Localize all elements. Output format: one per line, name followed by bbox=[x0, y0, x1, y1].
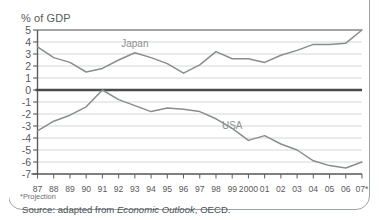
x-tick-label: 07* bbox=[356, 184, 369, 194]
y-tick-label: 0 bbox=[13, 84, 31, 96]
x-tick-label: 2000 bbox=[239, 184, 258, 194]
x-tick-label: 89 bbox=[65, 184, 75, 194]
source-caption: Source: adapted from Economic Outlook, O… bbox=[22, 204, 231, 215]
x-tick-label: 90 bbox=[81, 184, 91, 194]
y-tick-label: 4 bbox=[13, 36, 31, 48]
x-tick-label: 92 bbox=[114, 184, 124, 194]
y-tick-label: -1 bbox=[13, 96, 31, 108]
x-tick-label: 95 bbox=[163, 184, 173, 194]
x-tick-label: 01 bbox=[260, 184, 270, 194]
x-tick-label: 05 bbox=[325, 184, 335, 194]
x-tick-label: 93 bbox=[130, 184, 140, 194]
x-tick-label: 98 bbox=[211, 184, 221, 194]
y-tick-label: -2 bbox=[13, 108, 31, 120]
y-tick-label: -3 bbox=[13, 120, 31, 132]
y-tick-label: -4 bbox=[13, 132, 31, 144]
x-tick-label: 06 bbox=[341, 184, 351, 194]
x-tick-label: 04 bbox=[309, 184, 319, 194]
x-tick-label: 96 bbox=[179, 184, 189, 194]
x-tick-label: 91 bbox=[98, 184, 108, 194]
y-tick-label: 5 bbox=[13, 24, 31, 36]
x-tick-label: 97 bbox=[195, 184, 205, 194]
source-prefix: Source: adapted from bbox=[22, 204, 117, 215]
y-tick-label: -7 bbox=[13, 168, 31, 180]
source-suffix: , OECD. bbox=[195, 204, 231, 215]
gdp-chart-figure: % of GDP *Projection Source: adapted fro… bbox=[0, 0, 379, 220]
series-label-japan: Japan bbox=[121, 38, 148, 49]
y-tick-label: 3 bbox=[13, 48, 31, 60]
x-tick-label: 94 bbox=[146, 184, 156, 194]
y-tick-label: 2 bbox=[13, 60, 31, 72]
source-publication: Economic Outlook bbox=[117, 204, 195, 215]
series-line-japan bbox=[38, 30, 363, 73]
x-tick-label: 02 bbox=[276, 184, 286, 194]
x-tick-label: 88 bbox=[49, 184, 59, 194]
x-tick-label: 03 bbox=[292, 184, 302, 194]
y-tick-label: -6 bbox=[13, 156, 31, 168]
series-label-usa: USA bbox=[222, 119, 243, 130]
y-tick-label: -5 bbox=[13, 144, 31, 156]
y-tick-label: 1 bbox=[13, 72, 31, 84]
x-tick-label: 87 bbox=[33, 184, 43, 194]
x-tick-label: 99 bbox=[227, 184, 237, 194]
